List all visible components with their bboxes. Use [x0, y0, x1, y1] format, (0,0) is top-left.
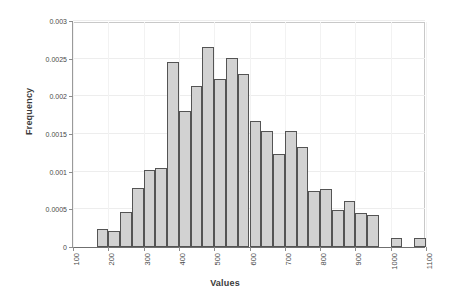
y-tick-label: 0.003	[49, 18, 67, 25]
histogram-bar	[332, 210, 344, 247]
gridline-vertical	[426, 22, 427, 247]
histogram-bar	[167, 62, 179, 247]
histogram-bar	[108, 231, 120, 247]
histogram-bar	[226, 58, 238, 247]
x-tick-mark	[214, 247, 215, 251]
x-tick-mark	[320, 247, 321, 251]
histogram-figure: Frequency 00.00050.0010.00150.0020.00250…	[0, 0, 450, 299]
x-axis-title: Values	[0, 278, 450, 288]
x-tick-mark	[250, 247, 251, 251]
histogram-bar	[273, 154, 285, 247]
x-tick-label: 1100	[426, 253, 434, 269]
y-tick-label: 0.001	[49, 168, 67, 175]
x-tick-label: 1000	[391, 253, 399, 270]
x-tick-mark	[73, 247, 74, 251]
histogram-bar	[238, 74, 250, 247]
histogram-bar	[214, 79, 226, 247]
y-tick-mark	[69, 59, 73, 60]
x-tick-mark	[179, 247, 180, 251]
histogram-bar	[261, 131, 273, 247]
histogram-bar	[320, 189, 332, 247]
x-tick-label: 300	[144, 253, 152, 266]
x-tick-mark	[355, 247, 356, 251]
histogram-bar	[297, 147, 309, 247]
y-tick-mark	[69, 96, 73, 97]
x-tick-label: 100	[73, 253, 81, 266]
x-tick-label: 900	[355, 253, 363, 266]
y-tick-label: 0.0005	[46, 206, 67, 213]
y-tick-label: 0.002	[49, 93, 67, 100]
x-tick-label: 200	[108, 253, 116, 266]
histogram-bar	[414, 238, 426, 247]
histogram-bars	[73, 22, 425, 247]
plot-area: 00.00050.0010.00150.0020.00250.003 10020…	[72, 22, 425, 248]
y-tick-mark	[69, 134, 73, 135]
x-tick-mark	[391, 247, 392, 251]
x-tick-label: 700	[285, 253, 293, 266]
x-tick-label: 800	[320, 253, 328, 266]
x-tick-mark	[144, 247, 145, 251]
x-tick-label: 600	[250, 253, 258, 266]
histogram-bar	[308, 191, 320, 247]
x-tick-mark	[285, 247, 286, 251]
histogram-bar	[202, 47, 214, 247]
y-tick-label: 0	[63, 244, 67, 251]
histogram-bar	[391, 238, 403, 247]
x-tick-mark	[108, 247, 109, 251]
y-tick-mark	[69, 21, 73, 22]
y-tick-mark	[69, 209, 73, 210]
histogram-bar	[97, 229, 109, 247]
histogram-bar	[250, 121, 262, 247]
histogram-bar	[144, 170, 156, 247]
y-tick-label: 0.0025	[46, 55, 67, 62]
histogram-bar	[132, 188, 144, 247]
histogram-bar	[179, 111, 191, 247]
gridline-horizontal	[73, 20, 425, 21]
histogram-bar	[344, 201, 356, 247]
x-tick-label: 500	[214, 253, 222, 266]
histogram-bar	[120, 212, 132, 247]
x-tick-label: 400	[179, 253, 187, 266]
histogram-bar	[285, 131, 297, 247]
x-tick-mark	[426, 247, 427, 251]
histogram-bar	[355, 213, 367, 247]
y-axis-title: Frequency	[24, 88, 34, 135]
y-tick-label: 0.0015	[46, 131, 67, 138]
histogram-bar	[155, 168, 167, 247]
y-tick-mark	[69, 172, 73, 173]
histogram-bar	[191, 86, 203, 247]
histogram-bar	[367, 215, 379, 247]
